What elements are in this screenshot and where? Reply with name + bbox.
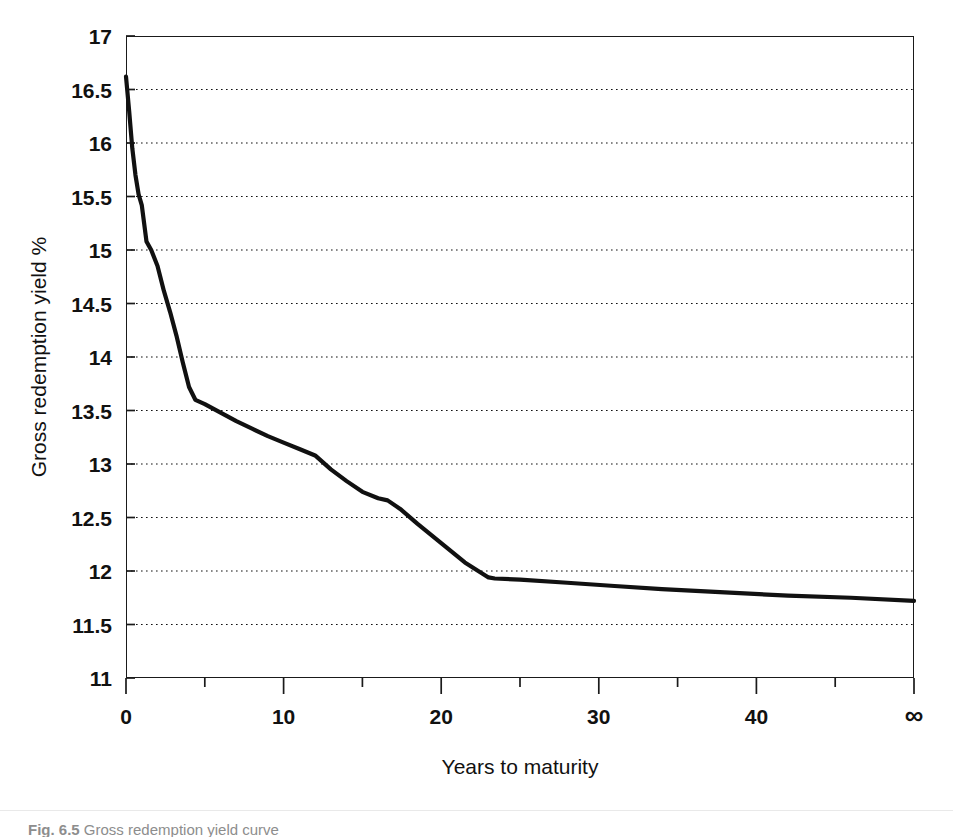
figure-caption: Fig. 6.5 Gross redemption yield curve — [28, 822, 928, 837]
x-tick-label: 20 — [430, 706, 453, 727]
x-axis-tick-labels: 010203040∞ — [0, 0, 953, 837]
y-axis-title: Gross redemption yield % — [18, 36, 58, 678]
page-separator — [0, 810, 953, 811]
yield-curve-figure: 1716.51615.51514.51413.51312.51211.511 0… — [0, 0, 953, 837]
x-axis-title: Years to maturity — [126, 756, 914, 777]
x-tick-label: 10 — [272, 706, 295, 727]
x-tick-label: ∞ — [905, 702, 924, 728]
x-tick-label: 30 — [587, 706, 610, 727]
figure-caption-text: Gross redemption yield curve — [84, 822, 279, 837]
x-tick-label: 0 — [120, 706, 132, 727]
x-tick-label: 40 — [745, 706, 768, 727]
figure-caption-label: Fig. 6.5 — [28, 822, 80, 837]
